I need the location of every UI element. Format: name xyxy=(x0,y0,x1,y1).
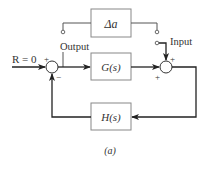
figure-caption: (a) xyxy=(104,145,116,157)
sum-right-plus-left-sign: + xyxy=(155,72,160,82)
delta-a-left-terminal xyxy=(61,30,65,34)
input-label: Input xyxy=(170,36,192,47)
input-arrow xyxy=(159,43,166,60)
reference-label: R = 0 xyxy=(12,53,37,65)
feedback-path-to-h xyxy=(132,67,196,117)
h-label: H(s) xyxy=(100,111,121,124)
sum-left-plus-sign: + xyxy=(44,54,49,64)
delta-a-right-terminal xyxy=(155,30,159,34)
delta-a-label: Δa xyxy=(103,17,117,31)
delta-a-left-lead xyxy=(63,23,91,30)
input-terminal xyxy=(155,41,159,45)
sum-left-minus-sign: − xyxy=(56,72,61,82)
g-label: G(s) xyxy=(101,61,121,74)
output-label: Output xyxy=(60,41,89,52)
sum-right-plus-top-sign: + xyxy=(170,54,175,64)
block-diagram: Δa G(s) H(s) R = 0 Output Input + − + + … xyxy=(0,0,208,169)
delta-a-right-lead xyxy=(131,23,157,30)
